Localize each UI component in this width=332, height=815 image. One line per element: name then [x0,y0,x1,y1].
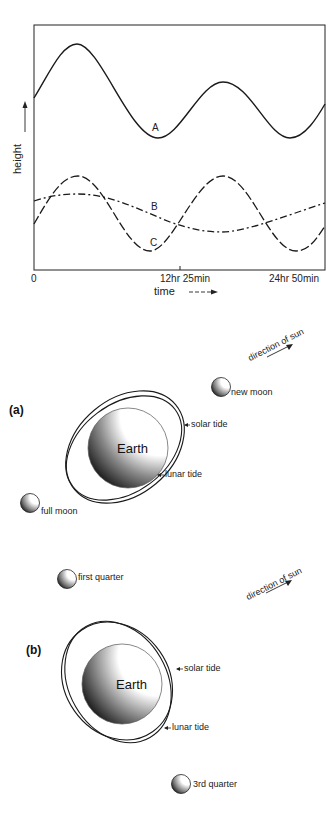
earth-label-a: Earth [117,441,148,456]
x-tick-12hr25min: 12hr 25min [160,273,210,284]
first-quarter-moon-icon [58,570,77,589]
panel-b-label: (b) [26,643,41,657]
chart-frame [34,25,325,270]
curve-c [34,176,325,251]
first-quarter-label: first quarter [78,572,124,582]
lunar-tide-label-b: lunar tide [172,722,209,732]
new-moon-icon [212,378,231,397]
curve-label-b: B [151,201,158,212]
panel-a-diagram [21,344,294,526]
x-tick-24hr50min: 24hr 50min [269,273,319,284]
tide-chart [23,25,326,295]
new-moon-label: new moon [231,387,273,397]
y-axis-label: height [11,142,23,176]
lunar-tide-label-a: lunar tide [165,469,202,479]
time-arrowhead-icon [211,290,218,295]
third-quarter-label: 3rd quarter [193,779,237,789]
curve-label-a: A [152,122,159,133]
x-axis-label: time [154,285,175,297]
full-moon-label: full moon [41,506,78,516]
curve-label-c: C [150,237,157,248]
solar-tide-label-a: solar tide [191,419,228,429]
earth-label-b: Earth [116,677,147,692]
x-tick-0: 0 [31,273,37,284]
curve-b [34,194,325,232]
panel-a-label: (a) [9,403,24,417]
curve-a [34,44,325,138]
solar-tide-label-b: solar tide [184,663,221,673]
panel-b-diagram [39,570,292,794]
third-quarter-moon-icon [172,775,191,794]
full-moon-icon [21,494,40,513]
height-arrowhead-icon [23,101,28,108]
